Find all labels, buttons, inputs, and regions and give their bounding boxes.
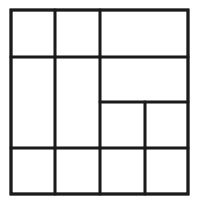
partition-diagram xyxy=(0,0,202,205)
cell-r2c34 xyxy=(100,57,188,102)
cell-r4c4 xyxy=(145,148,188,194)
cell-r1c2 xyxy=(55,10,100,57)
cell-r4c3 xyxy=(100,148,145,194)
cell-r1c1 xyxy=(11,10,55,57)
cell-r4c1 xyxy=(11,148,55,194)
cell-r23c1 xyxy=(11,57,55,148)
cell-r1c34 xyxy=(100,10,188,57)
cell-r3c3 xyxy=(100,102,145,148)
cell-r23c2 xyxy=(55,57,100,148)
cell-r4c2 xyxy=(55,148,100,194)
cell-r3c4 xyxy=(145,102,188,148)
